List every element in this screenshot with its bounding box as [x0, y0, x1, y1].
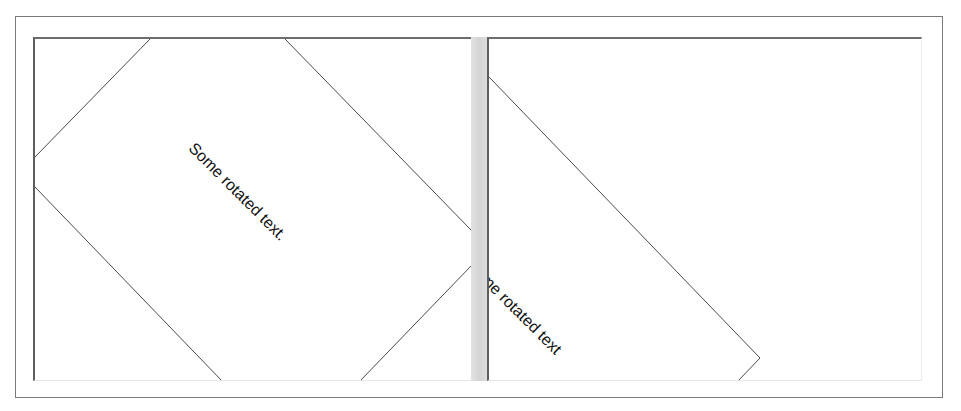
rotated-rectangle-shape	[489, 39, 922, 381]
left-canvas-panel[interactable]: Some rotated text.	[33, 37, 471, 381]
split-pane: Some rotated text. Some rotated text	[33, 37, 923, 382]
splitter-handle[interactable]	[471, 37, 487, 381]
right-canvas-panel[interactable]: Some rotated text	[487, 37, 922, 381]
